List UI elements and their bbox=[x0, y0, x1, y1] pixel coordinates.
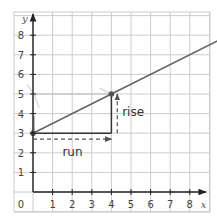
x-tick-label: 1 bbox=[49, 199, 55, 210]
data-point bbox=[109, 91, 115, 97]
y-tick-label: 7 bbox=[18, 50, 24, 61]
chart: runrise 12345678123456780xy bbox=[0, 0, 217, 224]
tick-labels: 12345678123456780xy bbox=[18, 13, 207, 210]
annotation-rise: rise bbox=[122, 105, 144, 119]
y-tick-label: 6 bbox=[18, 69, 24, 80]
y-tick-label: 3 bbox=[18, 128, 24, 139]
y-axis-label: y bbox=[21, 13, 28, 24]
annotations: runrise bbox=[33, 94, 144, 159]
x-tick-label: 4 bbox=[108, 199, 114, 210]
y-tick-label: 8 bbox=[18, 30, 24, 41]
x-tick-label: 5 bbox=[128, 199, 134, 210]
x-tick-label: 6 bbox=[147, 199, 153, 210]
y-tick-label: 4 bbox=[18, 109, 24, 120]
x-tick-label: 3 bbox=[89, 199, 95, 210]
y-tick-label: 5 bbox=[18, 89, 24, 100]
annotation-run: run bbox=[62, 145, 82, 159]
y-tick-label: 1 bbox=[18, 167, 24, 178]
x-tick-label: 8 bbox=[187, 199, 193, 210]
x-tick-label: 2 bbox=[69, 199, 75, 210]
origin-label: 0 bbox=[18, 199, 24, 210]
slope-triangle bbox=[27, 84, 111, 133]
y-tick-label: 2 bbox=[18, 148, 24, 159]
axes bbox=[30, 14, 206, 195]
x-axis-label: x bbox=[201, 199, 207, 210]
x-tick-label: 7 bbox=[167, 199, 173, 210]
